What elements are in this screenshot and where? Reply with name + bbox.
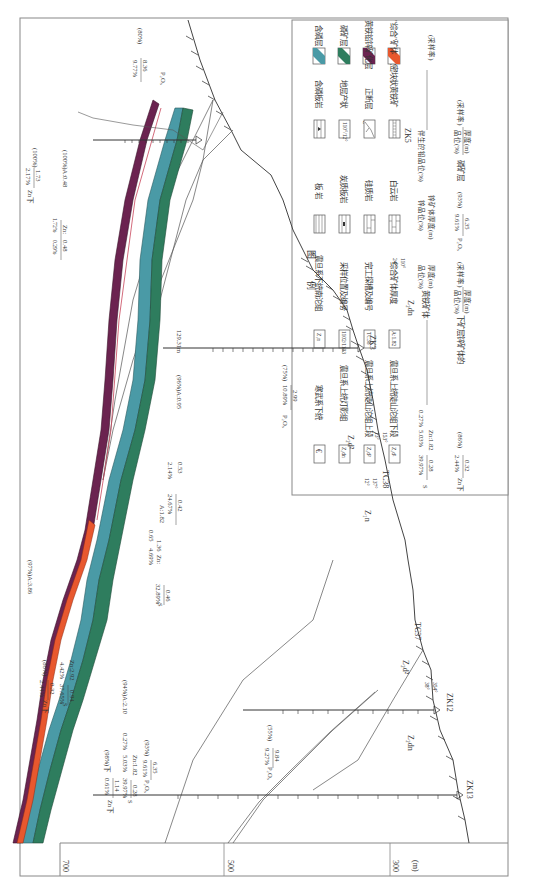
svg-text:磷矿层: 磷矿层 [339, 25, 349, 47]
svg-text:S: S [127, 800, 134, 804]
svg-text:39.97%: 39.97% [122, 778, 129, 799]
svg-text:0.29%: 0.29% [52, 240, 58, 255]
svg-text:8.36: 8.36 [142, 60, 149, 72]
svg-text:12°: 12° [364, 478, 370, 486]
svg-text:39.97%: 39.97% [418, 455, 425, 476]
formation-dengying-bottom: Z₂dn [406, 735, 415, 751]
svg-text:(100%): (100%) [31, 148, 39, 168]
svg-text:5.03%: 5.03% [418, 430, 425, 447]
svg-text:6.35: 6.35 [152, 762, 159, 773]
svg-text:0.28: 0.28 [132, 785, 139, 796]
svg-text:1102/1103: 1102/1103 [341, 331, 347, 354]
svg-text:0.27%: 0.27% [122, 733, 129, 750]
svg-text:品位(%): 品位(%) [417, 265, 426, 289]
svg-text:(100%)A:0.48: (100%)A:0.48 [61, 150, 69, 187]
elevation-700: 700 [61, 860, 70, 872]
svg-text:38°: 38° [424, 682, 430, 690]
svg-text:S: S [422, 485, 429, 489]
formation-dengying-top: Z₂dn [406, 300, 415, 316]
svg-text:10.89%: 10.89% [282, 385, 289, 406]
svg-text:9.84: 9.84 [274, 750, 281, 762]
svg-text:P₂O₅: P₂O₅ [160, 72, 167, 85]
svg-text:(93%): (93%) [456, 192, 464, 208]
svg-text:锌矿体厚度(m): 锌矿体厚度(m) [427, 195, 436, 239]
svg-text:厚度(m): 厚度(m) [427, 265, 436, 288]
svg-text:完工探槽及编号: 完工探槽及编号 [364, 262, 374, 311]
elevation-unit: (m) [411, 860, 420, 872]
svg-text:Zn:2.92: Zn:2.92 [69, 660, 76, 680]
svg-text:含磷板岩: 含磷板岩 [314, 80, 324, 109]
svg-text:地层产状: 地层产状 [339, 80, 349, 109]
tc38-label[interactable]: TC38 [381, 470, 390, 488]
zk13-label[interactable]: ZK13 [465, 780, 474, 799]
svg-text:37.65%: 37.65% [59, 684, 66, 705]
svg-text:震旦系上统陡山沱组上段: 震旦系上统陡山沱组上段 [364, 360, 374, 438]
svg-text:板 岩: 板 岩 [314, 183, 324, 200]
svg-text:5.03%: 5.03% [122, 755, 129, 772]
svg-text:2.17%: 2.17% [25, 168, 32, 185]
zk12-label[interactable]: ZK12 [445, 693, 454, 712]
svg-text:110°: 110° [400, 258, 406, 268]
svg-text:(97%)A:3.86: (97%)A:3.86 [26, 560, 34, 595]
svg-text:13°: 13° [374, 432, 380, 440]
svg-text:0.48: 0.48 [62, 240, 69, 251]
tc37-label[interactable]: TC37 [413, 622, 422, 640]
svg-text:1.73: 1.73 [35, 170, 42, 181]
svg-text:6.35: 6.35 [464, 218, 471, 229]
svg-text:(采样率): (采样率) [427, 35, 436, 60]
svg-text:0.46: 0.46 [165, 590, 172, 602]
svg-text:Zn:1.82: Zn:1.82 [132, 755, 139, 775]
svg-text:0.27%: 0.27% [418, 410, 425, 427]
svg-text:(75%): (75%) [281, 365, 289, 381]
dengying-fault [233, 690, 378, 843]
legend-box [292, 20, 508, 495]
svg-text:(94%)A:2.10: (94%)A:2.10 [121, 680, 129, 714]
svg-text:黄铁矿体: 黄铁矿体 [421, 290, 431, 319]
svg-text:9.27%: 9.27% [264, 748, 271, 765]
svg-text:2.99: 2.99 [292, 390, 299, 401]
svg-text:黄铁铅锌矿化层: 黄铁铅锌矿化层 [364, 20, 374, 70]
svg-text:0.53: 0.53 [177, 462, 184, 473]
svg-text:品位(%): 品位(%) [453, 290, 462, 314]
svg-text:1.14: 1.14 [114, 780, 121, 792]
svg-text:0.32: 0.32 [464, 460, 471, 471]
drill-hole-zk12[interactable] [243, 706, 440, 714]
svg-text:采样位置及编号: 采样位置及编号 [339, 262, 349, 311]
svg-text:Z₂d¹: Z₂d¹ [391, 447, 397, 457]
elevation-scale [60, 843, 508, 876]
svg-text:炭质板岩: 炭质板岩 [339, 175, 349, 204]
dengying-fault [228, 692, 375, 843]
svg-text:Z₁n: Z₁n [316, 333, 322, 341]
svg-text:品位(%): 品位(%) [453, 130, 462, 154]
elevation-labels: 700 500 300 (m) [61, 860, 420, 872]
svg-text:32.89%: 32.89% [155, 584, 162, 605]
zk5-label[interactable]: ZK5 [403, 128, 412, 143]
svg-text:1.72%: 1.72% [52, 218, 58, 233]
svg-text:Z₂d²: Z₂d² [366, 447, 372, 457]
svg-text:Zn下: Zn下 [456, 478, 464, 492]
svg-text:(93%): (93%) [143, 740, 151, 756]
svg-text:24.67%: 24.67% [167, 494, 174, 515]
svg-text:P₂O₅: P₂O₅ [144, 780, 151, 793]
svg-text:110°/12°: 110°/12° [342, 122, 348, 141]
svg-text:(86%): (86%) [456, 432, 464, 448]
svg-text:A:1.82: A:1.82 [391, 331, 397, 346]
svg-text:4.42%: 4.42% [59, 662, 66, 679]
svg-text:(采样率): (采样率) [456, 100, 465, 125]
svg-text:(96%)A:0.95: (96%)A:0.95 [175, 375, 183, 409]
svg-text:震旦系下统南沱组: 震旦系下统南沱组 [314, 255, 324, 312]
svg-text:寒武系下统: 寒武系下统 [314, 385, 324, 421]
svg-text:(55%): (55%) [266, 725, 274, 741]
svg-text:(86%): (86%) [41, 660, 49, 676]
svg-text:2.44%: 2.44% [39, 680, 46, 697]
svg-text:震旦系上统陡山沱组下段: 震旦系上统陡山沱组下段 [389, 360, 399, 438]
svg-text:137°: 137° [372, 478, 378, 488]
svg-text:(98%)下: (98%)下 [103, 750, 111, 773]
svg-text:"综合"矿体: "综合"矿体 [389, 20, 399, 55]
svg-text:Zn:: Zn: [156, 555, 163, 564]
svg-text:Zn下: Zn下 [26, 190, 34, 204]
svg-text:0.61%: 0.61% [104, 778, 111, 795]
svg-text:P₂O₅: P₂O₅ [282, 415, 289, 428]
svg-text:致密块状黄铁矿: 致密块状黄铁矿 [389, 58, 399, 108]
svg-text:综合矿体厚度: 综合矿体厚度 [389, 262, 399, 305]
